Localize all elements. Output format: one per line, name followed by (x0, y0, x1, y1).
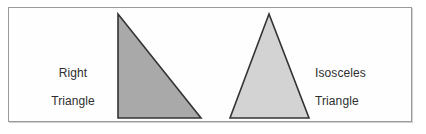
isosceles-triangle-label-line2: Triangle (315, 94, 411, 108)
diagram-canvas: Right Triangle Isosceles Triangle (9, 8, 413, 123)
right-triangle-label-line1: Right (31, 66, 115, 80)
diagram-frame: Right Triangle Isosceles Triangle (8, 7, 412, 122)
right-triangle-label-line2: Triangle (31, 94, 115, 108)
figure-root: Right Triangle Isosceles Triangle (0, 0, 426, 134)
isosceles-triangle-shape (230, 14, 309, 118)
isosceles-triangle-label: Isosceles Triangle (315, 52, 411, 122)
right-triangle-shape (118, 14, 201, 118)
right-triangle-label: Right Triangle (31, 52, 115, 122)
isosceles-triangle-label-line1: Isosceles (315, 66, 411, 80)
